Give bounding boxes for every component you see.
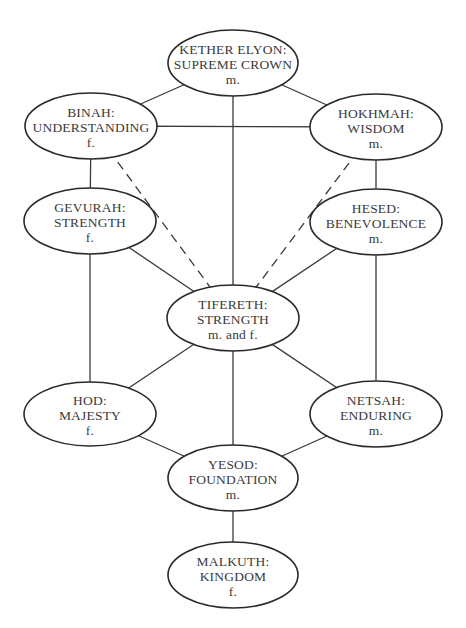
node-malkuth-meaning: KINGDOM [163, 569, 303, 584]
node-gevurah: GEVURAH:STRENGTHf. [20, 200, 160, 245]
node-binah-meaning: UNDERSTANDING [21, 120, 161, 135]
node-kether-gender: m. [163, 72, 303, 87]
node-hod-meaning: MAJESTY [20, 408, 160, 423]
node-tifereth-name: TIFERETH: [163, 297, 303, 312]
node-hod-gender: f. [20, 423, 160, 438]
node-tifereth: TIFERETH:STRENGTHm. and f. [163, 297, 303, 342]
node-kether-name: KETHER ELYON: [163, 42, 303, 57]
node-hesed-gender: m. [306, 231, 446, 246]
node-hesed-name: HESED: [306, 201, 446, 216]
node-malkuth: MALKUTH:KINGDOMf. [163, 554, 303, 599]
node-kether-meaning: SUPREME CROWN [163, 57, 303, 72]
node-tifereth-gender: m. and f. [163, 327, 303, 342]
node-netsah: NETSAH:ENDURINGm. [306, 393, 446, 438]
node-yesod-name: YESOD: [163, 457, 303, 472]
node-hesed-meaning: BENEVOLENCE [306, 216, 446, 231]
node-gevurah-name: GEVURAH: [20, 200, 160, 215]
node-binah-gender: f. [21, 135, 161, 150]
node-hokhmah: HOKHMAH:WISDOMm. [306, 106, 446, 151]
node-netsah-name: NETSAH: [306, 393, 446, 408]
node-hesed: HESED:BENEVOLENCEm. [306, 201, 446, 246]
node-yesod-gender: m. [163, 487, 303, 502]
node-binah-name: BINAH: [21, 105, 161, 120]
node-hokhmah-meaning: WISDOM [306, 121, 446, 136]
node-netsah-gender: m. [306, 423, 446, 438]
node-binah: BINAH:UNDERSTANDINGf. [21, 105, 161, 150]
node-yesod-meaning: FOUNDATION [163, 472, 303, 487]
node-gevurah-gender: f. [20, 230, 160, 245]
node-netsah-meaning: ENDURING [306, 408, 446, 423]
node-hokhmah-name: HOKHMAH: [306, 106, 446, 121]
node-gevurah-meaning: STRENGTH [20, 215, 160, 230]
node-tifereth-meaning: STRENGTH [163, 312, 303, 327]
node-hokhmah-gender: m. [306, 136, 446, 151]
node-hod-name: HOD: [20, 393, 160, 408]
node-malkuth-name: MALKUTH: [163, 554, 303, 569]
node-hod: HOD:MAJESTYf. [20, 393, 160, 438]
node-yesod: YESOD:FOUNDATIONm. [163, 457, 303, 502]
node-kether: KETHER ELYON:SUPREME CROWNm. [163, 42, 303, 87]
node-malkuth-gender: f. [163, 584, 303, 599]
